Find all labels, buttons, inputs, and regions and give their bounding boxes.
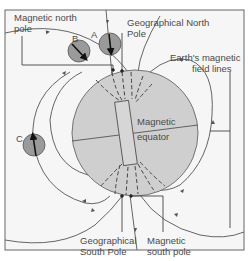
magnetic-north-pole-label-line1: Magnetic north — [14, 12, 77, 23]
geographical-south-pole-label-line2: South Pole — [80, 246, 126, 257]
geographical-north-pole-label-line2: Pole — [127, 28, 146, 39]
magnetic-south-pole-label-line2: south pole — [147, 246, 191, 257]
geographical-north-pole-label-line1: Geographical North — [127, 17, 209, 28]
compass-c-label: C — [16, 133, 23, 144]
geographical-south-pole-label-line1: Geographical — [80, 235, 137, 246]
compass-a — [99, 33, 121, 55]
earth-magnetic-field-diagram — [0, 0, 249, 261]
field-lines-label-line1: Earth's magnetic — [170, 52, 240, 63]
magnetic-north-pole-label-line2: pole — [14, 23, 32, 34]
field-lines-label-line2: field lines — [192, 63, 232, 74]
compass-c — [23, 134, 45, 156]
magnetic-equator-label-line1: Magnetic — [137, 116, 176, 127]
magnetic-south-pole-label-line1: Magnetic — [147, 235, 186, 246]
magnetic-equator-label-line2: equator — [137, 131, 169, 142]
compass-a-label: A — [91, 29, 97, 40]
compass-b-label: B — [72, 33, 78, 44]
